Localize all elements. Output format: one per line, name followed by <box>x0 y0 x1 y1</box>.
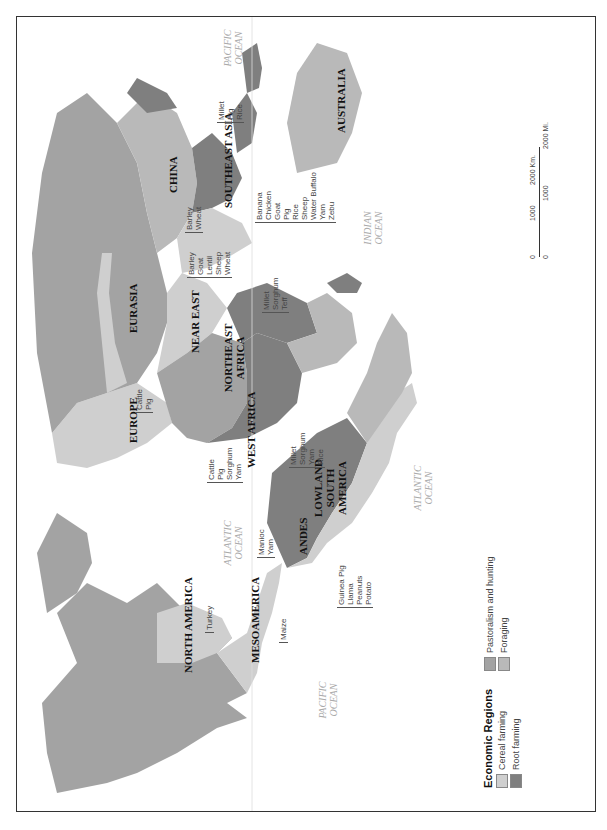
legend-item-foraging: Foraging <box>498 556 510 671</box>
crop-item: Guinea Pig <box>337 565 346 605</box>
crop-item: Yam <box>307 433 316 465</box>
crops-china: Millet Pig Rice <box>217 101 244 123</box>
label-north-america: NORTH AMERICA <box>182 577 194 673</box>
crop-item: Zebu <box>327 172 336 220</box>
crops-west-africa: Millet Sorghum Yam Rice <box>289 433 325 468</box>
crop-item: Millet <box>217 101 226 120</box>
crop-item: Lentil <box>205 252 214 275</box>
pastoralism-swatch <box>484 657 496 671</box>
scale-mi-2000: 2000 Mi. <box>542 122 549 149</box>
map-frame: NORTH AMERICA MESOAMERICA ANDES LOWLAND … <box>16 16 596 812</box>
scale-line <box>539 147 540 257</box>
crops-north-america: Turkey <box>205 606 214 633</box>
crops-lowland-south-america: Manioc Yam <box>257 529 275 558</box>
crop-item: Yam <box>234 448 243 480</box>
legend-item-cereal-farming: Cereal farming <box>496 711 508 788</box>
crops-southeast-asia: Banana Chicken Goat Pig Rice Sheep Water… <box>255 172 336 223</box>
crop-item: Yam <box>266 529 275 555</box>
crop-item: Goat <box>273 172 282 220</box>
crop-item: Potato <box>364 565 373 605</box>
crops-north-africa: Cattle Pig Sorghum Yam <box>207 448 243 483</box>
label-pacific-ocean-east: PACIFIC OCEAN <box>317 675 339 725</box>
north-america-landmass <box>42 583 247 793</box>
legend-label: Root farming <box>511 718 521 770</box>
crop-item: Pig <box>216 448 225 480</box>
label-west-africa: WEST AFRICA <box>245 391 257 468</box>
label-andes: ANDES <box>297 518 309 555</box>
label-pacific-ocean-west: PACIFIC OCEAN <box>222 23 244 73</box>
crop-item: Rice <box>235 101 244 120</box>
crops-near-east: Barley Goat Lentil Sheep Wheat <box>187 252 232 278</box>
label-southeast-asia: SOUTHEAST ASIA <box>222 113 234 208</box>
legend-item-root-farming: Root farming <box>510 711 522 788</box>
crop-item: Chicken <box>264 172 273 220</box>
crop-item: Peanuts <box>355 565 364 605</box>
crop-item: Millet <box>262 278 271 310</box>
crop-item: Pig <box>226 101 235 120</box>
cereal-farming-swatch <box>496 774 508 788</box>
label-australia: AUSTRALIA <box>335 68 347 133</box>
crop-item: Wheat <box>194 207 203 230</box>
crops-northeast-africa: Millet Sorghum Teff <box>262 278 289 313</box>
map-canvas: NORTH AMERICA MESOAMERICA ANDES LOWLAND … <box>17 17 596 812</box>
crop-item: Sorghum <box>271 278 280 310</box>
crop-item: Goat <box>196 252 205 275</box>
crop-item: Pig <box>144 389 153 410</box>
crops-eurasia: Barley Wheat <box>185 207 203 233</box>
legend-label: Foraging <box>499 617 509 653</box>
crop-item: Sorghum <box>225 448 234 480</box>
scale-km-1000: 1000 <box>529 205 536 221</box>
label-atlantic-ocean-north: ATLANTIC OCEAN <box>222 518 244 568</box>
crop-item: Banana <box>255 172 264 220</box>
crop-item: Wheat <box>223 252 232 275</box>
crop-item: Llama <box>346 565 355 605</box>
crop-item: Millet <box>289 433 298 465</box>
crop-item: Barley <box>185 207 194 230</box>
label-eurasia: EURASIA <box>127 283 139 333</box>
southeast-asia-landmass <box>192 133 242 213</box>
crop-item: Maize <box>279 619 288 640</box>
crop-item: Rice <box>316 433 325 465</box>
legend-label: Pastoralism and hunting <box>485 556 495 653</box>
foraging-swatch <box>498 657 510 671</box>
legend-item-pastoralism: Pastoralism and hunting <box>484 556 496 671</box>
crop-item: Sorghum <box>298 433 307 465</box>
label-northeast-africa: NORTHEAST AFRICA <box>222 323 246 393</box>
label-near-east: NEAR EAST <box>189 290 201 353</box>
australia-landmass <box>287 43 362 173</box>
scale-km-0: 0 <box>529 255 536 259</box>
legend: Economic Regions Cereal farming Root far… <box>482 556 522 788</box>
scale-mi-0: 0 <box>542 255 549 259</box>
scale-km-2000: 2000 Km. <box>529 155 536 185</box>
label-indian-ocean: INDIAN OCEAN <box>362 203 384 253</box>
crop-item: Cattle <box>135 389 144 410</box>
crop-item: Cattle <box>207 448 216 480</box>
crops-europe: Cattle Pig <box>135 389 153 413</box>
crop-item: Turkey <box>205 606 214 630</box>
crop-item: Manioc <box>257 529 266 555</box>
label-mesoamerica: MESOAMERICA <box>249 577 261 663</box>
madagascar-island <box>327 273 362 293</box>
legend-label: Cereal farming <box>497 711 507 770</box>
crop-item: Pig <box>282 172 291 220</box>
label-china: CHINA <box>167 156 179 193</box>
crops-andes: Guinea Pig Llama Peanuts Potato <box>337 565 373 608</box>
root-farming-swatch <box>510 774 522 788</box>
crop-item: Sheep <box>214 252 223 275</box>
label-atlantic-ocean-south: ATLANTIC OCEAN <box>412 463 434 513</box>
crop-item: Yam <box>318 172 327 220</box>
scale-mi-1000: 1000 <box>542 185 549 201</box>
crop-item: Rice <box>291 172 300 220</box>
crop-item: Teff <box>280 278 289 310</box>
crop-item: Water Buffalo <box>309 172 318 220</box>
crop-item: Sheep <box>300 172 309 220</box>
scale-bar: 0 1000 2000 Km. 0 1000 2000 Mi. <box>527 117 557 257</box>
crop-item: Barley <box>187 252 196 275</box>
crops-mesoamerica: Maize <box>279 619 288 643</box>
